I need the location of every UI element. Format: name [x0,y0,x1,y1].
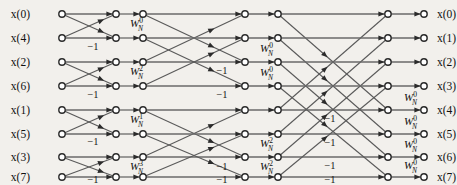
stage1-node-5 [113,131,119,137]
stage3-node-5 [275,131,281,137]
output-node-3 [421,83,427,89]
stage2-minus-0: −1 [216,65,227,76]
stage2-out-node-6 [242,154,248,160]
output-seg-arrow-1 [414,35,420,40]
output-label-6: x(6) [437,151,456,164]
input-node-4 [59,107,65,113]
output-seg-arrow-7 [414,174,420,179]
input-node-6 [59,154,65,160]
output-node-5 [421,131,427,137]
input-node-7 [59,174,65,180]
input-node-1 [59,35,65,41]
stage3-minus-0: −1 [324,113,335,124]
stage3-node-6 [275,154,281,160]
stage2-out-node-0 [242,11,248,17]
output-node-4 [421,107,427,113]
output-node-2 [421,59,427,65]
stage2-twiddle-2: W1N [130,112,144,129]
stage2-node-3 [140,83,146,89]
output-twiddle-1: W0N [404,114,418,131]
stage2-out-node-3 [242,83,248,89]
stage3-in-arrow-5 [378,131,384,136]
input-node-0 [59,11,65,17]
output-seg-arrow-4 [414,107,420,112]
stage3-node-4 [275,107,281,113]
stage3-in-arrow-0 [378,11,384,16]
input-node-5 [59,131,65,137]
stage3-node-3 [275,83,281,89]
twiddle-seg-2-arrow-1 [268,35,274,40]
stage3-in-arrow-4 [378,107,384,112]
stage3-out-node-0 [385,11,391,17]
stage3-out-node-5 [385,131,391,137]
stage2-node-5 [140,131,146,137]
output-twiddle-2: W0N [404,137,418,154]
stage1-node-3 [113,83,119,89]
stage2-out-node-2 [242,59,248,65]
stage3-in-arrow-1 [378,35,384,40]
output-twiddle-3: W0N [404,158,418,175]
stage3-minus-3: −1 [324,174,335,185]
input-label-7: x(7) [11,171,30,184]
output-label-7: x(7) [437,171,456,184]
stage1-node-6 [113,154,119,160]
twiddle-seg-1-arrow-1 [133,35,139,40]
stage3-twiddle-1: W0N [260,65,274,82]
stage3-out-node-6 [385,154,391,160]
input-label-3: x(6) [11,80,30,93]
stage2-minus-3: −1 [216,174,227,185]
stage1-minus-1: −1 [87,89,98,100]
stage3-out-node-2 [385,59,391,65]
input-label-1: x(4) [11,32,30,45]
output-label-5: x(5) [437,128,456,141]
stage1-node-4 [113,107,119,113]
stage2-minus-1: −1 [216,89,227,100]
output-node-7 [421,174,427,180]
stage1-node-2 [113,59,119,65]
stage1-minus-2: −1 [87,136,98,147]
stage1-node-1 [113,35,119,41]
stage3-in-arrow-7 [378,174,384,179]
stage2-twiddle-3: W3N [130,159,144,176]
stage1-minus-0: −1 [87,41,98,52]
stage1-node-7 [113,174,119,180]
stage2-twiddle-0: W0N [130,16,144,33]
output-node-1 [421,35,427,41]
output-seg-arrow-3 [414,83,420,88]
stage3-in-arrow-3 [378,83,384,88]
output-seg-arrow-2 [414,59,420,64]
twiddle-seg-2-arrow-4 [268,107,274,112]
input-node-3 [59,83,65,89]
stage1-minus-3: −1 [87,174,98,185]
stage2-out-node-1 [242,35,248,41]
twiddle-seg-1-arrow-3 [133,83,139,88]
stage3-twiddle-2: W2N [260,136,274,153]
stage3-node-2 [275,59,281,65]
stage3-in-arrow-6 [378,154,384,159]
stage2-out-node-7 [242,174,248,180]
stage3-node-1 [275,35,281,41]
twiddle-seg-2-arrow-0 [268,11,274,16]
stage3-out-node-1 [385,35,391,41]
stage3-minus-2: −1 [324,160,335,171]
stage3-node-7 [275,174,281,180]
stage1-arrow-7-6 [97,161,104,166]
stage1-arrow-6-7 [97,168,104,173]
stage3-out-node-3 [385,83,391,89]
output-node-6 [421,154,427,160]
input-label-5: x(5) [11,128,30,141]
input-label-0: x(0) [11,8,30,21]
stage2-twiddle-1: W2N [130,64,144,81]
stage3-out-node-7 [385,174,391,180]
output-label-0: x(0) [437,8,456,21]
stage2-out-node-4 [242,107,248,113]
stage3-out-node-4 [385,107,391,113]
stage3-in-arrow-2 [378,59,384,64]
stage2-arrow-5-7 [208,159,215,164]
input-label-6: x(3) [11,151,30,164]
input-label-4: x(1) [11,104,30,117]
twiddle-seg-2-arrow-2 [268,59,274,64]
output-seg-arrow-0 [414,11,420,16]
twiddle-seg-2-arrow-3 [268,83,274,88]
twiddle-seg-1-arrow-5 [133,131,139,136]
